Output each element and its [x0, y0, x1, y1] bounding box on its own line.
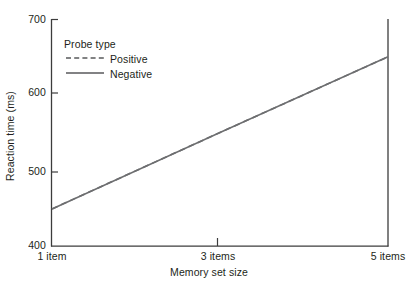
x-tick-label-3-items: 3 items	[183, 250, 253, 262]
x-tick-label-1-item: 1 item	[17, 250, 87, 262]
x-tick-label-5-items: 5 items	[353, 250, 418, 262]
y-tick-label-600: 600	[12, 86, 46, 98]
legend-entry-negative: Negative	[110, 68, 152, 80]
line-chart-plot	[0, 0, 418, 290]
legend-entry-positive: Positive	[110, 53, 148, 65]
chart-figure: Reaction time (ms) Memory set size 700 6…	[0, 0, 418, 290]
y-tick-label-500: 500	[12, 165, 46, 177]
y-tick-label-700: 700	[12, 13, 46, 25]
legend-title: Probe type	[64, 38, 116, 50]
x-axis-title: Memory set size	[0, 266, 418, 278]
